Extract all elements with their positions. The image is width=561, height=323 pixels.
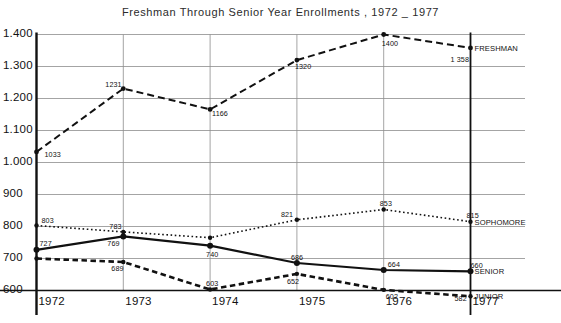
data-point — [295, 218, 299, 222]
data-point — [295, 272, 299, 276]
chart-figure: Freshman Through Senior Year Enrollments… — [0, 0, 561, 323]
data-label: 727 — [40, 239, 52, 248]
data-point — [120, 233, 126, 239]
data-point — [468, 294, 472, 298]
data-label: 853 — [380, 199, 392, 208]
series-line-senior — [37, 236, 471, 271]
data-label: 769 — [107, 239, 119, 248]
data-point — [382, 207, 386, 211]
data-point — [34, 150, 39, 155]
data-point — [208, 287, 212, 291]
series-label-freshman: FRESHMAN — [475, 44, 518, 53]
data-label: 689 — [111, 264, 123, 273]
data-label: 821 — [281, 210, 293, 219]
series-label-junior: JUNIOR — [475, 292, 504, 301]
data-point — [468, 46, 473, 51]
data-point — [468, 220, 472, 224]
series-line-sophomore — [37, 210, 471, 238]
data-label: 783 — [109, 222, 121, 231]
series-line-freshman — [37, 35, 471, 152]
series-label-sophomore: SOPHOMORE — [475, 218, 526, 227]
gridlines — [37, 35, 526, 291]
data-label: 1033 — [45, 150, 61, 159]
data-point — [34, 223, 38, 227]
data-label: 652 — [287, 277, 299, 286]
data-point — [381, 267, 387, 273]
data-label: 1231 — [105, 80, 121, 89]
data-point — [381, 32, 386, 37]
data-label: 602 — [386, 292, 398, 301]
data-label: 803 — [42, 216, 54, 225]
data-label: 740 — [206, 250, 218, 259]
data-label: 1166 — [212, 109, 228, 118]
data-label: 1 358 — [451, 55, 470, 64]
data-label: 1400 — [382, 39, 398, 48]
data-label: 603 — [206, 279, 218, 288]
data-point — [34, 256, 38, 260]
data-point — [208, 236, 212, 240]
data-label: 1320 — [295, 62, 311, 71]
data-point — [207, 243, 213, 249]
data-label: 582 — [455, 294, 467, 303]
data-label: 664 — [388, 260, 400, 269]
series-label-senior: SENIOR — [475, 267, 505, 276]
data-label: 686 — [291, 253, 303, 262]
